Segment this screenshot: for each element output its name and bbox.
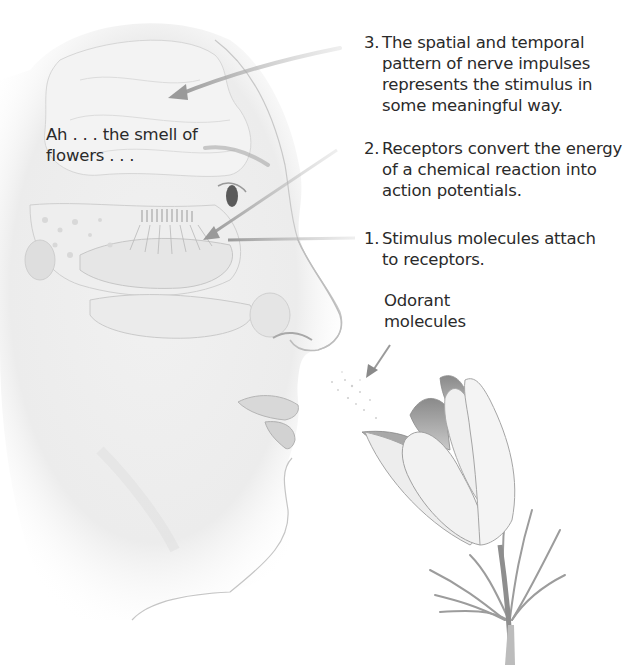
speech-line-2: flowers . . . — [46, 145, 198, 166]
step-2-number: 2. — [364, 138, 379, 159]
step-3-line: represents the stimulus in — [382, 74, 592, 95]
step-3-caption: 3. The spatial and temporal pattern of n… — [364, 32, 592, 116]
odorant-particles — [331, 371, 377, 419]
speech-line-1: Ah . . . the smell of — [46, 124, 198, 145]
step-3-number: 3. — [364, 32, 379, 53]
step-1-number: 1. — [364, 228, 379, 249]
step-1-line: Stimulus molecules attach — [382, 228, 596, 249]
step-3-line: The spatial and temporal — [382, 32, 592, 53]
arrow-odorant — [372, 345, 390, 372]
step-2-line: Receptors convert the energy — [382, 138, 622, 159]
step-2-line: action potentials. — [382, 180, 622, 201]
step-2-line: of a chemical reaction into — [382, 159, 622, 180]
step-3-line: pattern of nerve impulses — [382, 53, 592, 74]
step-1-caption: 1. Stimulus molecules attach to receptor… — [364, 228, 596, 270]
step-1-line: to receptors. — [382, 249, 596, 270]
face-profile — [0, 23, 342, 620]
step-2-caption: 2. Receptors convert the energy of a che… — [364, 138, 622, 201]
odorant-line-2: molecules — [384, 311, 466, 332]
step-3-line: some meaningful way. — [382, 95, 592, 116]
flower — [362, 376, 565, 665]
odorant-caption: Odorant molecules — [384, 290, 466, 332]
arrow-step-1 — [228, 238, 355, 240]
speech-caption: Ah . . . the smell of flowers . . . — [46, 124, 198, 166]
odorant-line-1: Odorant — [384, 290, 466, 311]
